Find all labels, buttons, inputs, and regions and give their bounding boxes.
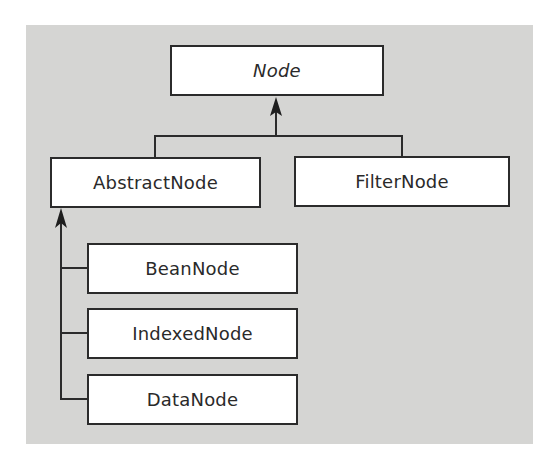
class-box-datanode: DataNode	[87, 374, 298, 425]
class-box-filternode: FilterNode	[294, 156, 510, 207]
class-label: DataNode	[147, 389, 239, 410]
class-label: AbstractNode	[93, 172, 218, 193]
class-label: BeanNode	[145, 258, 239, 279]
class-label: Node	[253, 60, 301, 81]
class-box-beannode: BeanNode	[87, 243, 298, 294]
abstractnode-connector	[60, 222, 88, 400]
class-box-abstractnode: AbstractNode	[50, 157, 261, 208]
class-box-indexednode: IndexedNode	[87, 308, 298, 359]
node-connector	[155, 112, 403, 157]
class-label: IndexedNode	[132, 323, 253, 344]
class-box-node: Node	[170, 45, 384, 96]
class-label: FilterNode	[355, 171, 449, 192]
